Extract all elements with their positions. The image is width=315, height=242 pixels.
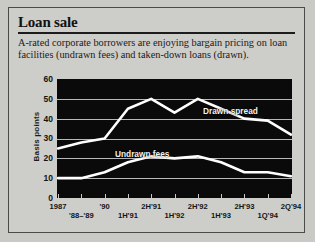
x-tick-mark: [58, 194, 59, 198]
headline-divider: [18, 32, 295, 34]
y-tick-60: 60: [13, 75, 53, 83]
chart: Basis points 60 50 40 30 20 10 0 Drawn s…: [9, 70, 304, 232]
x-axis-label: 1H'93: [211, 211, 231, 220]
figure-box: Loan sale A-rated corporate borrowers ar…: [8, 7, 305, 233]
plot-area: Drawn spread Undrawn fees: [57, 79, 292, 198]
figure-content: Loan sale A-rated corporate borrowers ar…: [9, 8, 304, 232]
x-axis-label: 2H'91: [141, 202, 161, 211]
figure-deck-text: A-rated corporate borrowers are enjoying…: [18, 37, 295, 60]
y-tick-20: 20: [13, 154, 53, 162]
x-axis-label: 2H'93: [234, 202, 254, 211]
x-tick-mark: [268, 194, 269, 198]
x-tick-mark: [151, 194, 152, 198]
y-tick-0: 0: [13, 194, 53, 202]
line-undrawn-fees: [58, 156, 291, 178]
x-tick-mark: [81, 194, 82, 198]
x-axis-label: 1H'92: [165, 211, 185, 220]
x-axis-label: 1Q'94: [257, 211, 277, 220]
x-tick-mark: [244, 194, 245, 198]
x-axis-label: 1987: [50, 202, 67, 211]
x-axis-label: 1H'91: [118, 211, 138, 220]
x-tick-mark: [128, 194, 129, 198]
x-tick-mark: [105, 194, 106, 198]
figure-headline: Loan sale: [18, 14, 295, 30]
x-axis-label: 2H'92: [188, 202, 208, 211]
x-axis-label: '90: [99, 202, 109, 211]
x-tick-mark: [291, 194, 292, 198]
y-tick-30: 30: [13, 134, 53, 142]
x-tick-mark: [175, 194, 176, 198]
x-axis-label: '88–'89: [69, 211, 94, 220]
series-label-undrawn-fees: Undrawn fees: [115, 149, 169, 159]
y-tick-10: 10: [13, 174, 53, 182]
y-tick-50: 50: [13, 95, 53, 103]
x-tick-mark: [221, 194, 222, 198]
series-lines: [57, 79, 292, 198]
x-axis-label: 2Q'94: [281, 202, 301, 211]
series-label-drawn-spread: Drawn spread: [203, 106, 258, 116]
x-tick-mark: [198, 194, 199, 198]
y-tick-40: 40: [13, 115, 53, 123]
